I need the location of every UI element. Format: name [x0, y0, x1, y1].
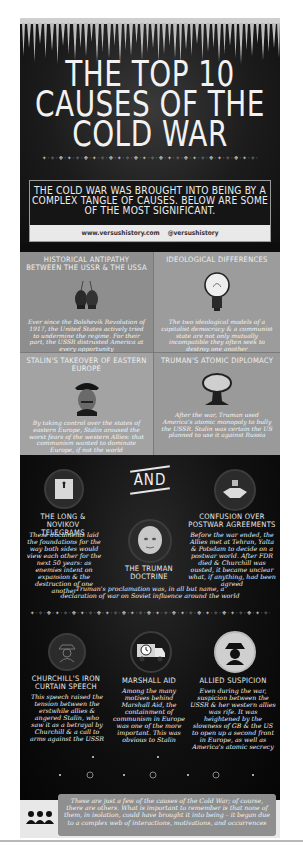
url-bar: www.versushistory.com @versushistory: [30, 225, 270, 241]
boxing-gloves-icon: [26, 276, 147, 316]
star-dots-decoration: [20, 755, 280, 779]
dark-section: AND The Long & Novikov Telegrams These d…: [20, 455, 280, 800]
spy-hat-icon: [214, 631, 256, 673]
cause-historical-antipathy: Historical Antipathy Between the USSR & …: [20, 252, 153, 352]
marshall-aid-title: Marshall Aid: [112, 677, 186, 685]
churchill-body: This speech raised the tension between t…: [28, 693, 106, 742]
truman-doctrine-title: The Truman Doctrine: [114, 565, 184, 581]
cause-truman-atomic-diplomacy: Truman's Atomic Diplomacy After the war,…: [153, 352, 280, 455]
twitter-handle[interactable]: @versushistory: [168, 229, 219, 237]
confusion-body: Before the war ended, the Allies met at …: [188, 531, 276, 587]
cause-title: Stalin's Takeover of Eastern Europe: [26, 357, 147, 373]
group-people-icon: [26, 810, 54, 830]
document-icon: [44, 469, 84, 509]
handshake-icon: [214, 469, 256, 511]
cause-body: After the war, Truman used America's ato…: [160, 412, 274, 439]
cause-body: Ever since the Bolshevik Revolution of 1…: [26, 319, 147, 353]
ornament-divider: ✦·✧·❖·✦·✧·❖·✦·✧·❖·✦·✧·❖·✦·✧·❖·✦·✧·❖·✦·✧·…: [42, 155, 258, 161]
confusion-title: Confusion Over Postwar Agreements: [186, 513, 278, 529]
allied-suspicion-title: Allied Suspicion: [190, 677, 276, 685]
allied-suspicion-body: Even during the war, suspicion between t…: [190, 687, 276, 750]
title-line-3: COLD WAR: [20, 116, 280, 151]
delivery-truck-clock-icon: [130, 631, 172, 673]
header: THE TOP 10 CAUSES OF THE COLD WAR ✦·✧·❖·…: [20, 18, 280, 243]
page-title: THE TOP 10 CAUSES OF THE COLD WAR: [20, 58, 280, 148]
cause-title: Truman's Atomic Diplomacy: [160, 357, 274, 365]
cause-ideological-differences: Ideological Differences The two ideologi…: [153, 252, 280, 352]
stalin-portrait-icon: [26, 377, 147, 417]
lightbulb-icon: [160, 268, 274, 316]
causes-grid: Historical Antipathy Between the USSR & …: [20, 252, 280, 455]
cause-stalin-takeover: Stalin's Takeover of Eastern Europe By t…: [20, 352, 153, 455]
and-label: AND: [128, 467, 172, 493]
bottom-divider: [0, 840, 303, 842]
intro-text: THE COLD WAR WAS BROUGHT INTO BEING BY A…: [30, 181, 270, 216]
cause-title: Ideological Differences: [160, 256, 274, 264]
website-link[interactable]: www.versushistory.com: [82, 229, 160, 237]
cause-body: The two ideological models of a capitali…: [160, 319, 274, 353]
cause-title: Historical Antipathy Between the USSR & …: [26, 256, 147, 272]
churchill-title: Churchill's Iron Curtain Speech: [26, 675, 106, 691]
infographic: THE TOP 10 CAUSES OF THE COLD WAR ✦·✧·❖·…: [20, 18, 280, 838]
spy-silhouette-icon: [48, 633, 86, 671]
truman-portrait-icon: [128, 519, 172, 563]
cause-body: By taking control over the states of eas…: [26, 420, 147, 454]
truman-doctrine-body: Truman's proclamation was, in all but na…: [60, 585, 240, 599]
footer: These are just a few of the causes of th…: [20, 800, 280, 838]
intro-box: THE COLD WAR WAS BROUGHT INTO BEING BY A…: [29, 180, 271, 242]
ornament-divider: ✦·✧·❖·✦·✧·❖·✦·✧·❖·✦·✧·❖·✦·✧·❖·✦·✧·❖·✦·✧·…: [30, 610, 270, 616]
footer-note: These are just a few of the causes of th…: [58, 794, 276, 836]
mushroom-cloud-icon: [160, 369, 274, 409]
marshall-aid-body: Among the many motives behind Marshall A…: [112, 687, 186, 743]
